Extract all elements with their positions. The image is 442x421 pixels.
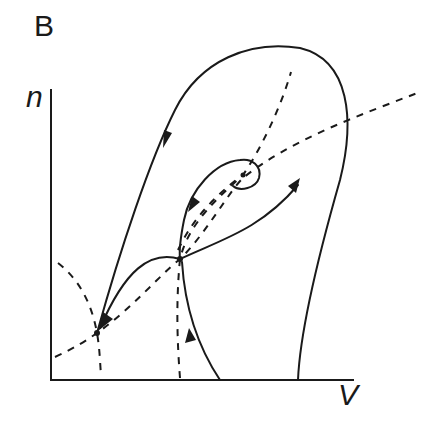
nullcline-inner-branch [178, 180, 236, 250]
v-nullcline-left-branch [58, 263, 101, 374]
unstable-focus-point [241, 173, 246, 178]
stable-node-point [94, 330, 100, 336]
saddle-to-node-trajectory [100, 257, 180, 328]
arrow-outer-down-icon [163, 130, 172, 148]
outer-trajectory [97, 46, 347, 380]
saddle-point [177, 256, 183, 262]
v-nullcline-middle-branch [177, 72, 291, 378]
stable-manifold-trajectory [182, 262, 220, 380]
phase-plane-plot [0, 0, 442, 421]
